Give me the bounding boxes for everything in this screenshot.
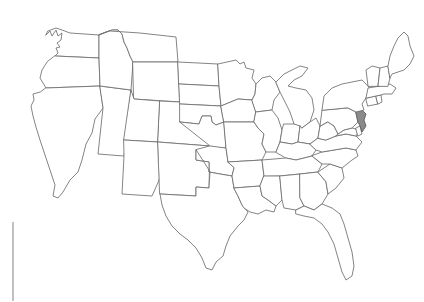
state-indiana[interactable] [280,124,300,144]
state-arizona[interactable] [122,140,160,196]
state-florida[interactable] [296,204,354,280]
us-states-map[interactable] [0,0,424,302]
state-washington[interactable] [46,28,99,58]
state-arkansas[interactable] [228,160,264,188]
state-north-dakota[interactable] [178,62,219,86]
state-new-york[interactable] [322,80,372,112]
us-map-figure: Map of the United States [0,0,424,302]
state-wisconsin[interactable] [252,76,280,112]
state-michigan[interactable] [276,66,314,128]
state-wyoming[interactable] [133,62,180,102]
state-south-dakota[interactable] [179,84,221,106]
state-vermont[interactable] [366,66,380,86]
state-california[interactable] [31,86,103,198]
state-oregon[interactable] [40,56,100,88]
state-maine[interactable] [388,32,414,78]
